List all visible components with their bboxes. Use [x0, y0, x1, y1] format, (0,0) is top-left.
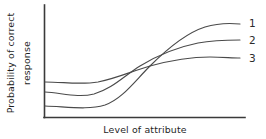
- y-axis-title: Probability of correct response: [5, 12, 32, 113]
- curve-3-path: [45, 57, 240, 83]
- chart-figure: 1 2 3 Probability of correct response Le…: [0, 0, 266, 139]
- curve-3-label: 3: [249, 52, 256, 64]
- x-axis-title: Level of attribute: [103, 124, 186, 135]
- curve-2-label: 2: [249, 34, 256, 46]
- y-axis-title-line-1: Probability of correct: [5, 12, 16, 113]
- line-chart-plot: 1 2 3 Probability of correct response Le…: [0, 0, 266, 139]
- curve-1-label: 1: [249, 17, 256, 29]
- y-axis-title-line-2: response: [21, 41, 32, 85]
